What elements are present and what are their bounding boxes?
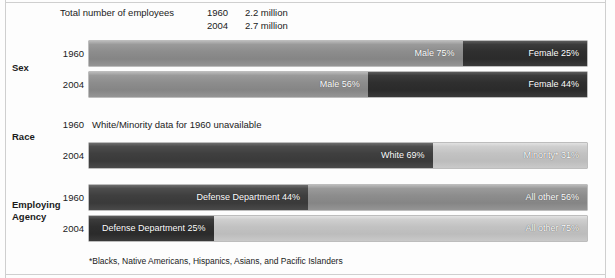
bar-segment: Female 25% [463, 41, 588, 66]
stacked-bar: Defense Department 44%All other 56% [89, 185, 587, 210]
header-value-1960: 2.2 million [245, 6, 288, 19]
bar-segment-label: White 69% [381, 143, 425, 168]
bar-segment-label: Male 56% [320, 72, 360, 97]
row-year-label: 2004 [57, 216, 84, 242]
bar-segment-label: Female 44% [528, 72, 579, 97]
bar-row-sex-1960: 1960Male 75%Female 25% [0, 41, 615, 67]
header-year-2004: 2004 [207, 19, 245, 32]
bar-row-agency-2004: 2004Defense Department 25%All other 75% [0, 216, 615, 242]
row-unavailable-note: White/Minority data for 1960 unavailable [92, 112, 262, 138]
row-year-label: 2004 [57, 72, 84, 98]
bar-segment-label: Minority* 31% [523, 143, 579, 168]
row-year-label: 2004 [57, 143, 84, 169]
bar-segment-label: All other 56% [525, 185, 579, 210]
bar-row-sex-2004: 2004Male 56%Female 44% [0, 72, 615, 98]
bar-segment: Defense Department 25% [89, 216, 214, 241]
header-year-1960: 1960 [207, 6, 245, 19]
stacked-bar: White 69%Minority* 31% [89, 143, 587, 168]
row-year-label: 1960 [57, 112, 84, 138]
stacked-bar: Male 75%Female 25% [89, 41, 587, 66]
header-row: 20042.7 million [60, 19, 288, 32]
header-value-2004: 2.7 million [245, 19, 288, 32]
bar-row-race-1960: 1960White/Minority data for 1960 unavail… [0, 112, 615, 138]
row-year-label: 1960 [57, 41, 84, 67]
bar-segment: Minority* 31% [433, 143, 587, 168]
bar-segment-label: Male 75% [414, 41, 454, 66]
bar-segment: Female 44% [368, 72, 587, 97]
frame-border-bottom [5, 274, 606, 275]
bar-segment-label: Defense Department 44% [197, 185, 301, 210]
bar-row-race-2004: 2004White 69%Minority* 31% [0, 143, 615, 169]
bar-segment: Male 75% [89, 41, 463, 66]
total-employees-header: Total number of employees19602.2 million… [60, 6, 288, 32]
footnote: *Blacks, Native Americans, Hispanics, As… [89, 256, 343, 266]
figure-container: Total number of employees19602.2 million… [0, 0, 615, 278]
header-row: Total number of employees19602.2 million [60, 6, 288, 19]
bar-segment-label: All other 75% [525, 216, 579, 241]
bar-segment-label: Defense Department 25% [102, 216, 206, 241]
bar-segment: Male 56% [89, 72, 368, 97]
bar-segment: All other 56% [308, 185, 587, 210]
frame-border-top [5, 2, 606, 3]
stacked-bar: Defense Department 25%All other 75% [89, 216, 587, 241]
row-year-label: 1960 [57, 185, 84, 211]
bar-segment: Defense Department 44% [89, 185, 308, 210]
stacked-bar: Male 56%Female 44% [89, 72, 587, 97]
bar-segment-label: Female 25% [528, 41, 579, 66]
bar-row-agency-1960: 1960Defense Department 44%All other 56% [0, 185, 615, 211]
bar-segment: White 69% [89, 143, 433, 168]
total-employees-label: Total number of employees [60, 6, 207, 19]
bar-segment: All other 75% [214, 216, 588, 241]
